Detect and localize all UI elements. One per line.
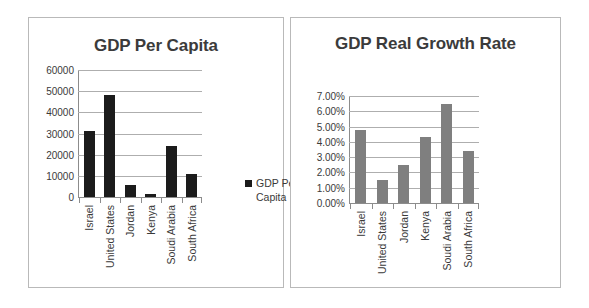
bar-series-left <box>79 70 202 197</box>
x-category-label: Jordan <box>120 205 141 237</box>
bar-series-right <box>350 96 479 203</box>
x-category-labels-right: IsraelUnited StatesJordanKenyaSoudi Arab… <box>350 211 479 274</box>
x-category-label-text: United States <box>377 211 388 274</box>
bar-jordan <box>398 165 409 203</box>
x-category-label: Israel <box>79 205 100 231</box>
y-tick-label: 3.00% <box>317 152 345 163</box>
x-tick-mark <box>79 198 100 203</box>
x-category-label-text: Israel <box>84 205 95 231</box>
bar-south-africa <box>186 174 197 197</box>
y-tick-label: 0.00% <box>317 198 345 209</box>
x-tick-mark <box>161 198 182 203</box>
x-category-label: South Africa <box>458 211 480 268</box>
y-tick-label: 7.00% <box>317 91 345 102</box>
x-category-label-text: South Africa <box>463 211 474 268</box>
x-category-label-text: Kenya <box>420 211 431 241</box>
x-category-label: Kenya <box>415 211 437 241</box>
chart-panel-gdp-real-growth-rate: GDP Real Growth Rate 7.00%6.00%5.00%4.00… <box>290 17 561 288</box>
y-tick-label: 0 <box>68 192 74 203</box>
x-tick-marks-right <box>350 204 479 209</box>
bar-slot <box>120 70 141 197</box>
x-category-label-text: United States <box>105 205 116 268</box>
x-category-label: South Africa <box>182 205 203 262</box>
y-tick-label: 2.00% <box>317 167 345 178</box>
x-tick-mark <box>458 204 480 209</box>
x-tick-mark <box>100 198 121 203</box>
bar-slot <box>415 96 437 203</box>
x-tick-mark <box>182 198 203 203</box>
bar-slot <box>161 70 182 197</box>
x-tick-mark <box>393 204 415 209</box>
x-category-label: Jordan <box>393 211 415 243</box>
x-tick-mark <box>141 198 162 203</box>
y-tick-label: 50000 <box>46 86 74 97</box>
bar-slot <box>458 96 480 203</box>
bar-jordan <box>125 185 136 197</box>
y-tick-label: 10000 <box>46 171 74 182</box>
y-tick-label: 1.00% <box>317 183 345 194</box>
y-tick-label: 40000 <box>46 107 74 118</box>
x-category-labels-left: IsraelUnited StatesJordanKenyaSoudi Arab… <box>79 205 202 268</box>
x-category-label: Soudi Arabia <box>161 205 182 265</box>
chart-title-right: GDP Real Growth Rate <box>291 32 560 55</box>
bar-slot <box>393 96 415 203</box>
y-tick-label: 30000 <box>46 129 74 140</box>
chart-image-canvas: GDP Per Capita 6000050000400003000020000… <box>0 0 589 308</box>
x-tick-marks-left <box>79 198 202 203</box>
x-category-label-text: Soudi Arabia <box>166 205 177 265</box>
bar-kenya <box>420 137 431 203</box>
plot-area-right: 7.00%6.00%5.00%4.00%3.00%2.00%1.00%0.00%… <box>349 96 479 204</box>
bar-slot <box>100 70 121 197</box>
chart-title-left: GDP Per Capita <box>29 34 283 57</box>
bar-united-states <box>104 95 115 197</box>
y-tick-label: 20000 <box>46 150 74 161</box>
x-category-label-text: Kenya <box>146 205 157 235</box>
x-category-label: Soudi Arabia <box>436 211 458 271</box>
bar-slot <box>436 96 458 203</box>
bar-united-states <box>377 180 388 203</box>
bar-slot <box>350 96 372 203</box>
x-category-label-text: Soudi Arabia <box>442 211 453 271</box>
y-tick-label: 6.00% <box>317 106 345 117</box>
bar-slot <box>141 70 162 197</box>
bar-kenya <box>145 194 156 197</box>
plot-area-left: 6000050000400003000020000100000 IsraelUn… <box>78 70 202 198</box>
bar-soudi-arabia <box>441 104 452 203</box>
x-category-label-text: Jordan <box>399 211 410 243</box>
x-category-label-text: South Africa <box>187 205 198 262</box>
y-tick-label: 5.00% <box>317 122 345 133</box>
x-tick-mark <box>436 204 458 209</box>
legend-swatch-icon-left <box>245 180 252 187</box>
bar-slot <box>372 96 394 203</box>
x-tick-mark <box>350 204 372 209</box>
y-tick-label: 60000 <box>46 65 74 76</box>
x-tick-mark <box>415 204 437 209</box>
bar-soudi-arabia <box>166 146 177 197</box>
bar-south-africa <box>463 151 474 203</box>
bar-slot <box>182 70 203 197</box>
x-category-label: United States <box>372 211 394 274</box>
bar-slot <box>79 70 100 197</box>
x-category-label: United States <box>100 205 121 268</box>
x-tick-mark <box>120 198 141 203</box>
x-category-label: Kenya <box>141 205 162 235</box>
chart-panel-gdp-per-capita: GDP Per Capita 6000050000400003000020000… <box>28 17 284 288</box>
x-category-label-text: Jordan <box>125 205 136 237</box>
x-category-label-text: Israel <box>356 211 367 237</box>
bar-israel <box>355 130 366 203</box>
y-tick-label: 4.00% <box>317 137 345 148</box>
x-tick-mark <box>372 204 394 209</box>
bar-israel <box>84 131 95 197</box>
x-category-label: Israel <box>350 211 372 237</box>
